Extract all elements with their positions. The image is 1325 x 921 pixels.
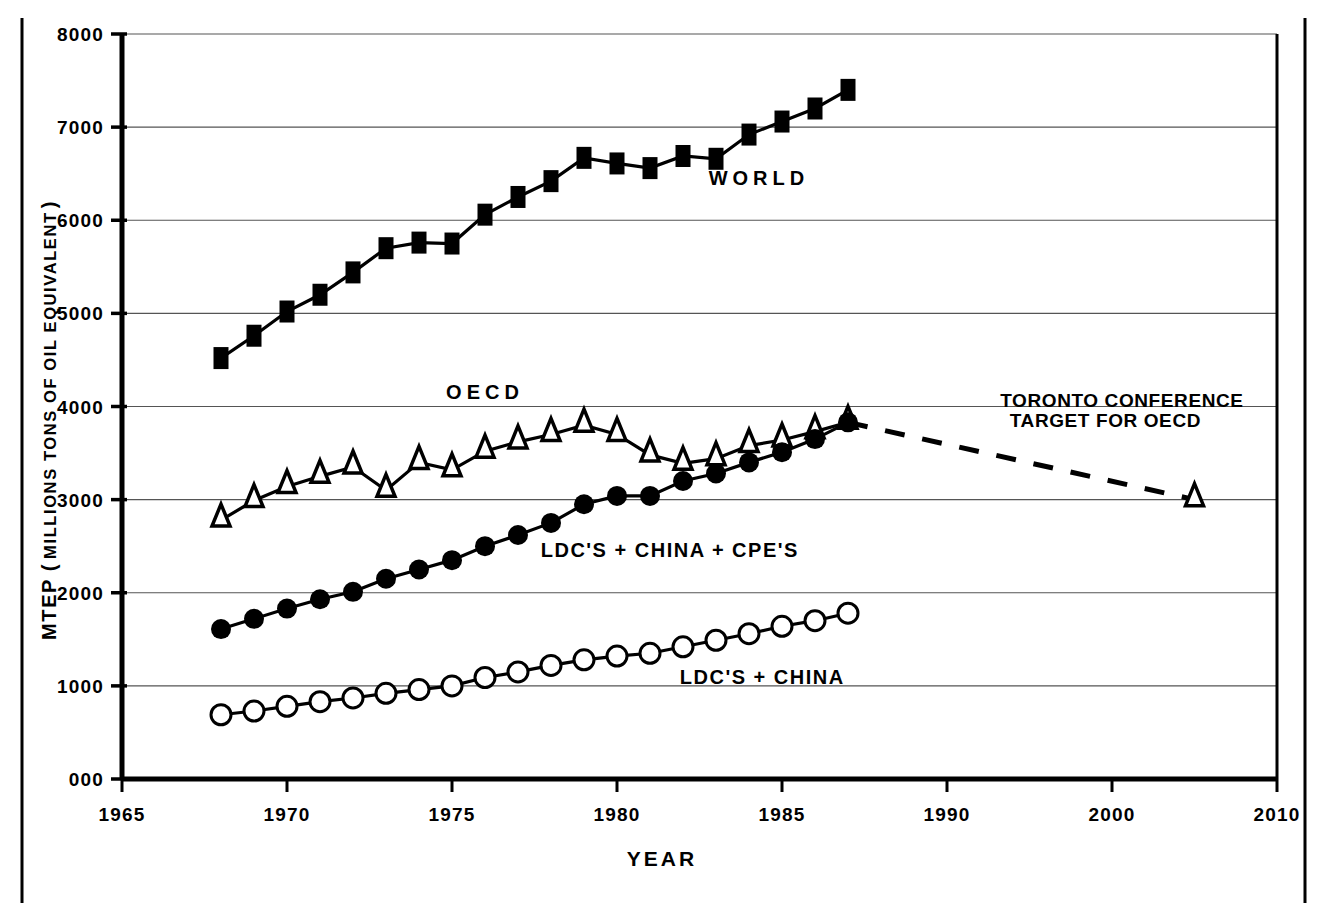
x-tick-label: 1970 [263,804,310,825]
data-point-hollow-circle [310,692,330,712]
data-point-filled-circle [475,536,495,556]
data-point-filled-square [643,157,658,179]
data-point-filled-square [676,145,691,167]
gridlines [122,34,1277,686]
annotation-ldc-china: LDC'S + CHINA [680,666,845,688]
y-tick-label: 4000 [57,397,104,418]
data-point-filled-square [412,232,427,254]
data-point-hollow-circle [772,616,792,636]
data-point-filled-circle [310,589,330,609]
data-point-hollow-triangle [1186,484,1204,506]
data-point-hollow-circle [541,655,561,675]
data-point-filled-circle [640,486,660,506]
y-tick-label: 2000 [57,583,104,604]
y-tick-label: 8000 [57,24,104,45]
data-point-filled-square [247,325,262,347]
data-point-hollow-circle [574,650,594,670]
data-point-hollow-circle [673,637,693,657]
annotation-toronto-line2: TARGET FOR OECD [1010,410,1201,431]
data-point-hollow-triangle [509,426,527,448]
annotation-toronto-line1: TORONTO CONFERENCE [1000,390,1243,411]
y-axis-title-suffix: ) [38,200,60,208]
y-tick-label: 6000 [57,210,104,231]
data-point-filled-circle [409,559,429,579]
y-axis-ticks [111,34,127,779]
x-tick-label: 1980 [593,804,640,825]
data-point-filled-circle [673,471,693,491]
data-point-hollow-circle [442,676,462,696]
chart-figure: 00010002000300040005000600070008000 1965… [0,0,1325,921]
x-tick-label: 1975 [428,804,475,825]
x-axis-title: YEAR [627,847,697,870]
y-axis-title-prefix: MTEP ( [38,563,60,640]
data-point-filled-square [544,170,559,192]
data-point-filled-square [313,284,328,306]
series-toronto-conference-target-for-oecd [848,422,1204,505]
data-point-hollow-circle [838,603,858,623]
x-tick-label: 1990 [923,804,970,825]
annotation-world: WORLD [709,167,810,189]
data-point-filled-square [511,186,526,208]
annotation-ldc-china-cpe: LDC'S + CHINA + CPE'S [541,539,799,561]
data-point-hollow-triangle [608,418,626,440]
data-point-hollow-circle [244,701,264,721]
data-point-filled-square [280,301,295,323]
data-point-filled-circle [739,452,759,472]
svg-text:MTEP (MILLIONS TONS OF OIL EQ: MTEP (MILLIONS TONS OF OIL EQUIVALENT) [38,200,60,640]
data-point-hollow-triangle [707,443,725,465]
data-point-hollow-triangle [245,485,263,507]
series-world [214,79,856,369]
data-point-hollow-triangle [278,471,296,493]
data-point-hollow-triangle [740,430,758,452]
series-ldc-s-china-cpe-s [211,412,858,639]
data-point-filled-square [808,98,823,120]
data-point-filled-square [610,152,625,174]
data-point-hollow-circle [409,680,429,700]
data-point-hollow-triangle [377,474,395,496]
data-point-hollow-circle [607,646,627,666]
data-point-hollow-triangle [476,435,494,457]
x-tick-label: 2000 [1088,804,1135,825]
data-point-filled-square [346,261,361,283]
data-point-filled-circle [376,569,396,589]
data-point-hollow-triangle [674,447,692,469]
data-point-filled-square [742,124,757,146]
data-point-filled-circle [343,582,363,602]
data-point-hollow-circle [277,696,297,716]
data-point-hollow-triangle [410,446,428,468]
data-point-filled-circle [244,609,264,629]
series-ldc-s-china [211,603,858,725]
y-tick-label: 5000 [57,303,104,324]
data-point-filled-circle [607,486,627,506]
data-point-filled-circle [442,550,462,570]
y-axis-title-inner: MILLIONS TONS OF OIL EQUIVALENT [41,211,59,559]
data-point-hollow-triangle [575,409,593,431]
data-point-filled-circle [805,429,825,449]
data-point-filled-circle [277,599,297,619]
data-point-filled-circle [706,464,726,484]
data-point-filled-square [577,147,592,169]
data-point-hollow-circle [376,683,396,703]
data-point-hollow-circle [805,611,825,631]
data-point-hollow-circle [211,705,231,725]
x-axis-tick-labels: 19651970197519801985199020002010 [98,804,1300,825]
x-tick-label: 2010 [1253,804,1300,825]
data-point-hollow-triangle [443,454,461,476]
data-point-filled-square [478,204,493,226]
series-oecd [212,406,857,526]
data-point-filled-square [775,111,790,133]
y-axis-title: MTEP (MILLIONS TONS OF OIL EQUIVALENT) [38,200,60,640]
energy-consumption-line-chart: 00010002000300040005000600070008000 1965… [0,0,1325,921]
data-point-hollow-triangle [542,418,560,440]
data-point-hollow-circle [640,643,660,663]
data-point-filled-square [445,233,460,255]
data-point-filled-circle [574,494,594,514]
data-point-filled-square [841,79,856,101]
data-point-hollow-triangle [311,460,329,482]
data-point-filled-circle [772,442,792,462]
data-point-hollow-triangle [212,504,230,526]
y-tick-label: 3000 [57,490,104,511]
y-tick-label: 1000 [57,676,104,697]
annotation-oecd: OECD [446,381,524,403]
data-point-hollow-circle [706,630,726,650]
